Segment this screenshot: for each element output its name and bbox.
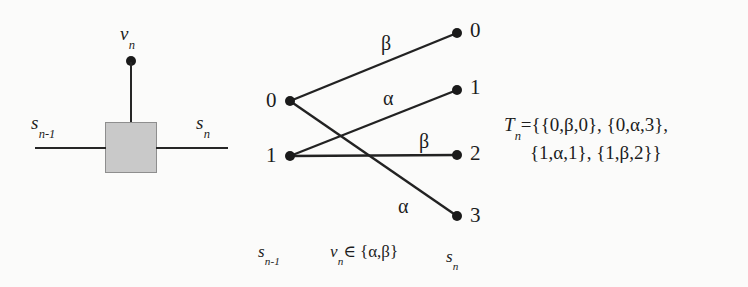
trellis-axis-left-base: s — [258, 242, 265, 261]
trellis-node-left-0 — [285, 96, 295, 106]
trellis-label-right-3: 3 — [470, 205, 481, 226]
trellis-node-right-1 — [452, 85, 462, 95]
formula-line-2: {1,α,1}, {1,β,2}} — [504, 140, 668, 165]
trellis-label-right-2: 2 — [470, 143, 481, 164]
trellis-axis-center-set: ∈ {α,β} — [343, 242, 398, 261]
transition-set-formula: Tn={{0,β,0}, {0,α,3}, {1,α,1}, {1,β,2}} — [504, 112, 668, 165]
trellis-edge-label-1-to-1: α — [383, 88, 393, 108]
figure-canvas: vn sn-1 sn 0 1 0 — [0, 0, 748, 287]
trellis-edge-1-to-2 — [290, 155, 457, 156]
trellis-axis-right-label: sn — [446, 248, 458, 269]
trellis-edge-label-1-to-2: β — [419, 131, 429, 151]
trellis-node-right-0 — [452, 28, 462, 38]
trellis-node-right-3 — [452, 211, 462, 221]
trellis-axis-left-label: sn-1 — [258, 243, 280, 264]
formula-line-2-text: {1,α,1}, {1,β,2}} — [530, 142, 662, 163]
formula-name-sub: n — [515, 129, 521, 143]
trellis-axis-right-sub: n — [453, 260, 459, 272]
trellis-axis-left-sub: n-1 — [265, 255, 280, 267]
trellis-edge-label-0-to-3: α — [398, 196, 408, 216]
trellis-label-left-1: 1 — [266, 145, 277, 166]
trellis-axis-center-label: vn∈ {α,β} — [330, 243, 398, 264]
trellis-axis-right-base: s — [446, 247, 453, 266]
trellis-edge-0-to-0 — [290, 33, 457, 101]
formula-line-1: Tn={{0,β,0}, {0,α,3}, — [504, 112, 668, 140]
trellis-label-left-0: 0 — [266, 90, 277, 111]
trellis-node-right-2 — [452, 150, 462, 160]
formula-name-base: T — [504, 114, 515, 135]
trellis-edge-label-0-to-0: β — [381, 33, 391, 53]
trellis-label-right-0: 0 — [470, 20, 481, 41]
trellis-node-left-1 — [285, 151, 295, 161]
trellis-edge-1-to-1 — [290, 90, 457, 156]
trellis-edge-0-to-3 — [290, 101, 457, 216]
trellis-label-right-1: 1 — [470, 77, 481, 98]
trellis-axis-center-base: v — [330, 242, 338, 261]
formula-line-1-text: ={{0,β,0}, {0,α,3}, — [521, 114, 668, 135]
trellis-axis-center-sub: n — [338, 255, 344, 267]
